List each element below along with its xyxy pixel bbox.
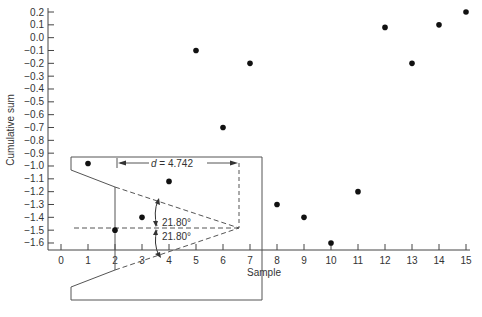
angle-arrowhead-lower-bottom bbox=[155, 252, 161, 258]
data-point bbox=[139, 215, 145, 221]
y-axis-title: Cumulative sum bbox=[5, 94, 16, 166]
y-tick-label: −1.1 bbox=[24, 173, 44, 184]
y-tick-label: 0.0 bbox=[30, 32, 44, 43]
x-tick-label: 12 bbox=[379, 255, 391, 266]
y-tick-label: −1.5 bbox=[24, 225, 44, 236]
x-tick-label: 4 bbox=[166, 255, 172, 266]
d-arrowhead-right bbox=[230, 161, 238, 166]
x-tick-label: 11 bbox=[353, 255, 364, 266]
x-tick-label: 5 bbox=[193, 255, 199, 266]
data-point bbox=[193, 48, 199, 54]
d-arrowhead-left bbox=[118, 161, 126, 166]
y-tick-label: −0.1 bbox=[24, 45, 44, 56]
y-tick-label: −1.6 bbox=[24, 237, 44, 248]
data-point bbox=[355, 189, 361, 195]
y-tick-label: −1.3 bbox=[24, 199, 44, 210]
axes: 0.20.10.0−0.1−0.2−0.3−0.4−0.5−0.6−0.7−0.… bbox=[5, 7, 472, 279]
cusum-chart: 0.20.10.0−0.1−0.2−0.3−0.4−0.5−0.6−0.7−0.… bbox=[0, 0, 482, 317]
v-mask-top-arm-edge bbox=[71, 170, 115, 187]
v-mask: d = 4.742 21.80° 21.80° bbox=[71, 157, 262, 300]
angle-label-lower: 21.80° bbox=[162, 231, 191, 242]
data-point bbox=[409, 61, 415, 67]
y-tick-label: −0.5 bbox=[24, 96, 44, 107]
x-axis-title: Sample bbox=[247, 267, 281, 278]
data-point bbox=[463, 9, 469, 15]
data-point bbox=[301, 215, 307, 221]
angle-arrowhead-lower-top bbox=[153, 229, 158, 235]
x-tick-label: 9 bbox=[301, 255, 307, 266]
y-tick-label: 0.1 bbox=[30, 19, 44, 30]
data-point bbox=[328, 240, 334, 246]
data-point bbox=[166, 179, 172, 185]
y-tick-label: −1.4 bbox=[24, 212, 44, 223]
y-tick-label: 0.2 bbox=[30, 7, 44, 18]
data-point bbox=[382, 25, 388, 31]
data-points bbox=[85, 9, 469, 246]
x-tick-label: 6 bbox=[220, 255, 226, 266]
data-point bbox=[247, 61, 253, 67]
d-value: = 4.742 bbox=[157, 158, 194, 169]
y-tick-label: −0.3 bbox=[24, 71, 44, 82]
angle-label-upper: 21.80° bbox=[162, 217, 191, 228]
angle-arrowhead-upper-top bbox=[155, 198, 160, 205]
y-tick-label: −0.2 bbox=[24, 58, 44, 69]
x-tick-label: 10 bbox=[325, 255, 337, 266]
x-ticks: 0123456789101112131415 bbox=[58, 244, 472, 266]
data-point bbox=[436, 22, 442, 28]
y-ticks: 0.20.10.0−0.1−0.2−0.3−0.4−0.5−0.6−0.7−0.… bbox=[24, 7, 54, 249]
x-tick-label: 1 bbox=[85, 255, 91, 266]
x-tick-label: 0 bbox=[58, 255, 64, 266]
y-tick-label: −1.2 bbox=[24, 186, 44, 197]
y-tick-label: −0.4 bbox=[24, 83, 44, 94]
data-point bbox=[85, 161, 91, 167]
data-point bbox=[112, 227, 118, 233]
x-tick-label: 8 bbox=[274, 255, 280, 266]
x-tick-label: 13 bbox=[406, 255, 418, 266]
x-tick-label: 14 bbox=[433, 255, 445, 266]
y-tick-label: −0.9 bbox=[24, 148, 44, 159]
y-tick-label: −0.7 bbox=[24, 122, 44, 133]
y-tick-label: −0.8 bbox=[24, 135, 44, 146]
d-label: d = 4.742 bbox=[151, 158, 193, 169]
y-tick-label: −0.6 bbox=[24, 109, 44, 120]
x-tick-label: 7 bbox=[247, 255, 253, 266]
data-point bbox=[274, 202, 280, 208]
x-tick-label: 15 bbox=[460, 255, 472, 266]
angle-arrowhead-upper-bottom bbox=[153, 221, 158, 227]
y-tick-label: −1.0 bbox=[24, 160, 44, 171]
data-point bbox=[220, 125, 226, 131]
